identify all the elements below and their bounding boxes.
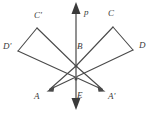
vertex-label-b: B (77, 42, 83, 51)
reflection-diagram: p C' D' A B E A' C D (0, 0, 152, 113)
vertex-label-e: E (77, 91, 83, 100)
axis-label-p: p (84, 8, 89, 17)
segment-B-C-prime (37, 28, 76, 66)
vertex-label-d: D (139, 41, 146, 50)
segment-C-D (113, 27, 133, 50)
vertex-label-a-prime: A' (108, 92, 115, 101)
segment-A-B (50, 66, 77, 90)
arrowhead-a-prime-icon (98, 86, 106, 92)
arrowhead-a-icon (47, 86, 55, 92)
node-E (75, 78, 78, 81)
vertex-label-c: C (108, 9, 114, 18)
diagram-canvas (0, 0, 152, 113)
segment-A-prime-B (76, 66, 103, 90)
segment-D-A (50, 50, 134, 90)
segment-C-prime-D-prime (18, 28, 37, 51)
vertex-label-d-prime: D' (3, 42, 11, 51)
vertex-label-c-prime: C' (34, 11, 42, 20)
node-B (75, 65, 78, 68)
arrowhead-up-icon (72, 2, 81, 14)
vertex-label-a: A (34, 92, 40, 101)
